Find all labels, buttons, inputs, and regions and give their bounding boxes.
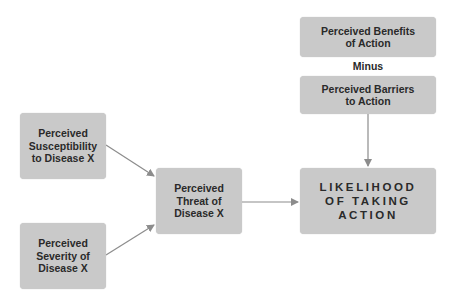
node-perceived-benefits: Perceived Benefits of Action bbox=[300, 17, 436, 57]
node-perceived-barriers: Perceived Barriers to Action bbox=[300, 76, 436, 114]
minus-label: Minus bbox=[300, 60, 436, 72]
node-perceived-susceptibility: Perceived Susceptibility to Disease X bbox=[20, 113, 106, 179]
node-likelihood-of-taking-action: LIKELIHOOD OF TAKING ACTION bbox=[300, 168, 436, 234]
node-perceived-severity: Perceived Severity of Disease X bbox=[20, 223, 106, 289]
node-perceived-threat: Perceived Threat of Disease X bbox=[156, 168, 242, 234]
